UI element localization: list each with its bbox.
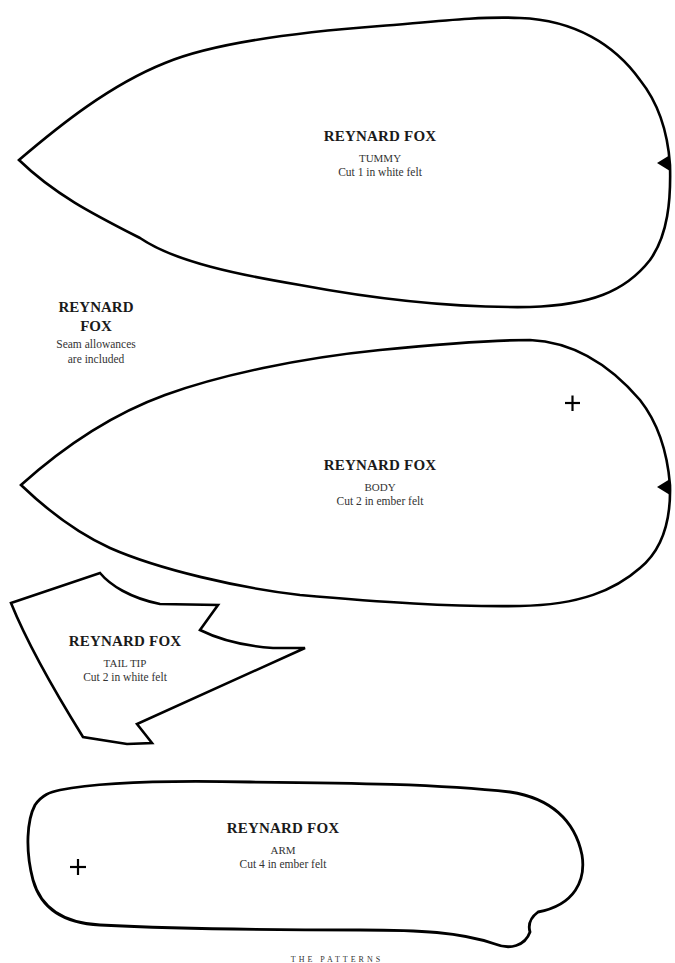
piece-cut-instruction: Cut 1 in white felt <box>324 165 437 179</box>
tummy-notch-icon <box>657 155 670 171</box>
side-note-text-line1: Seam allowances <box>56 337 136 351</box>
piece-title: REYNARD FOX <box>69 633 182 650</box>
piece-title: REYNARD FOX <box>227 820 340 837</box>
side-note-title-line2: FOX <box>56 317 136 336</box>
seam-allowance-note: REYNARD FOX Seam allowances are included <box>56 298 136 366</box>
body-notch-icon <box>657 479 670 495</box>
piece-title: REYNARD FOX <box>324 128 437 145</box>
piece-cut-instruction: Cut 4 in ember felt <box>227 857 340 871</box>
side-note-text-line2: are included <box>56 352 136 366</box>
tummy-label: REYNARD FOX TUMMY Cut 1 in white felt <box>324 128 437 179</box>
body-cross-mark-icon <box>565 396 580 412</box>
page-footer: THE PATTERNS <box>291 955 383 963</box>
side-note-title-line1: REYNARD <box>56 298 136 317</box>
piece-title: REYNARD FOX <box>324 457 437 474</box>
piece-cut-instruction: Cut 2 in white felt <box>69 670 182 684</box>
piece-part-name: TUMMY <box>324 151 437 165</box>
body-label: REYNARD FOX BODY Cut 2 in ember felt <box>324 457 437 508</box>
piece-part-name: ARM <box>227 843 340 857</box>
tail-tip-label: REYNARD FOX TAIL TIP Cut 2 in white felt <box>69 633 182 684</box>
piece-part-name: BODY <box>324 480 437 494</box>
piece-part-name: TAIL TIP <box>69 656 182 670</box>
arm-cross-mark-icon <box>70 859 86 875</box>
arm-label: REYNARD FOX ARM Cut 4 in ember felt <box>227 820 340 871</box>
piece-cut-instruction: Cut 2 in ember felt <box>324 494 437 508</box>
